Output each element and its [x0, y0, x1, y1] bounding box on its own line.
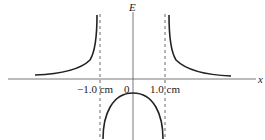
y-axis-label: E: [129, 2, 136, 13]
field-plot: [0, 0, 265, 140]
tick-label-pos: 1.0 cm: [150, 84, 180, 95]
x-axis-label: x: [258, 74, 263, 85]
curve-left-branch: [35, 15, 97, 75]
tick-label-neg: −1.0 cm: [77, 84, 113, 95]
tick-label-zero: 0: [124, 84, 130, 95]
curve-right-branch: [169, 15, 231, 76]
